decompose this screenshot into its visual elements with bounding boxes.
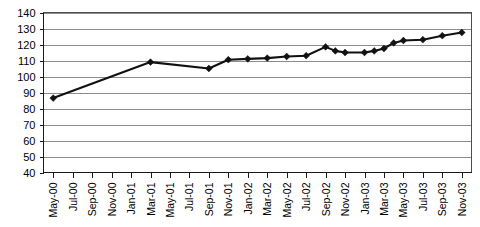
x-axis-tick-label: Sep-03 bbox=[436, 182, 448, 216]
data-point-marker bbox=[419, 36, 426, 43]
series-line-index bbox=[53, 33, 462, 99]
data-point-marker bbox=[283, 53, 290, 60]
x-axis-tick-label: Mar-01 bbox=[145, 182, 157, 215]
x-axis-tick-label: Mar-03 bbox=[378, 182, 390, 215]
x-axis-tick-label: Jan-01 bbox=[125, 182, 137, 214]
data-point-marker bbox=[205, 65, 212, 72]
x-axis-tick-label: Jan-02 bbox=[242, 182, 254, 214]
x-axis-tick-label: Jul-02 bbox=[300, 182, 312, 211]
x-axis-tick-label: Nov-03 bbox=[456, 182, 468, 216]
line-chart: 405060708090100110120130140 May-00Jul-00… bbox=[0, 0, 480, 227]
y-axis-tick-label: 100 bbox=[17, 71, 35, 83]
x-axis-tick-label: May-03 bbox=[397, 182, 409, 217]
data-point-marker bbox=[50, 95, 57, 102]
data-point-marker bbox=[400, 37, 407, 44]
x-axis-tick-label: Sep-01 bbox=[203, 182, 215, 216]
x-axis-tick-label: Nov-02 bbox=[339, 182, 351, 216]
x-axis-tick-marks bbox=[54, 173, 463, 178]
x-axis-tick-label: May-01 bbox=[164, 182, 176, 217]
x-axis-tick-labels: May-00Jul-00Sep-00Nov-00Jan-01Mar-01May-… bbox=[47, 182, 468, 217]
x-axis-tick-label: Sep-00 bbox=[86, 182, 98, 216]
x-axis-tick-label: Nov-00 bbox=[106, 182, 118, 216]
y-axis-tick-label: 140 bbox=[17, 7, 35, 19]
data-point-marker bbox=[147, 59, 154, 66]
data-point-marker bbox=[371, 48, 378, 55]
y-axis-tick-label: 90 bbox=[23, 87, 35, 99]
data-point-marker bbox=[361, 49, 368, 56]
y-axis-tick-labels: 405060708090100110120130140 bbox=[17, 7, 43, 179]
x-axis-tick-label: Nov-01 bbox=[222, 182, 234, 216]
y-axis-tick-label: 130 bbox=[17, 23, 35, 35]
data-point-marker bbox=[332, 48, 339, 55]
y-axis-tick-label: 60 bbox=[23, 135, 35, 147]
plot-frame bbox=[44, 13, 472, 173]
data-point-marker bbox=[439, 32, 446, 39]
gridlines bbox=[44, 14, 472, 158]
x-axis-tick-label: Jul-03 bbox=[417, 182, 429, 211]
data-point-marker bbox=[322, 44, 329, 51]
x-axis-tick-label: Mar-02 bbox=[261, 182, 273, 215]
series-markers-index bbox=[50, 29, 465, 101]
data-point-marker bbox=[264, 55, 271, 62]
x-axis-tick-label: May-00 bbox=[47, 182, 59, 217]
data-point-marker bbox=[458, 29, 465, 36]
y-axis-tick-label: 50 bbox=[23, 151, 35, 163]
x-axis-tick-label: Sep-02 bbox=[320, 182, 332, 216]
x-axis-tick-label: Jul-01 bbox=[183, 182, 195, 211]
x-axis-tick-label: Jan-03 bbox=[359, 182, 371, 214]
chart-canvas: 405060708090100110120130140 May-00Jul-00… bbox=[0, 0, 480, 227]
data-point-marker bbox=[225, 56, 232, 63]
data-point-marker bbox=[303, 52, 310, 59]
y-axis-tick-label: 70 bbox=[23, 119, 35, 131]
x-axis-tick-label: May-02 bbox=[281, 182, 293, 217]
data-point-marker bbox=[342, 49, 349, 56]
y-axis-tick-label: 110 bbox=[18, 55, 36, 67]
y-axis-tick-label: 40 bbox=[23, 167, 35, 179]
y-axis-tick-label: 120 bbox=[17, 39, 35, 51]
y-axis-tick-label: 80 bbox=[23, 103, 35, 115]
x-axis-tick-label: Jul-00 bbox=[67, 182, 79, 211]
